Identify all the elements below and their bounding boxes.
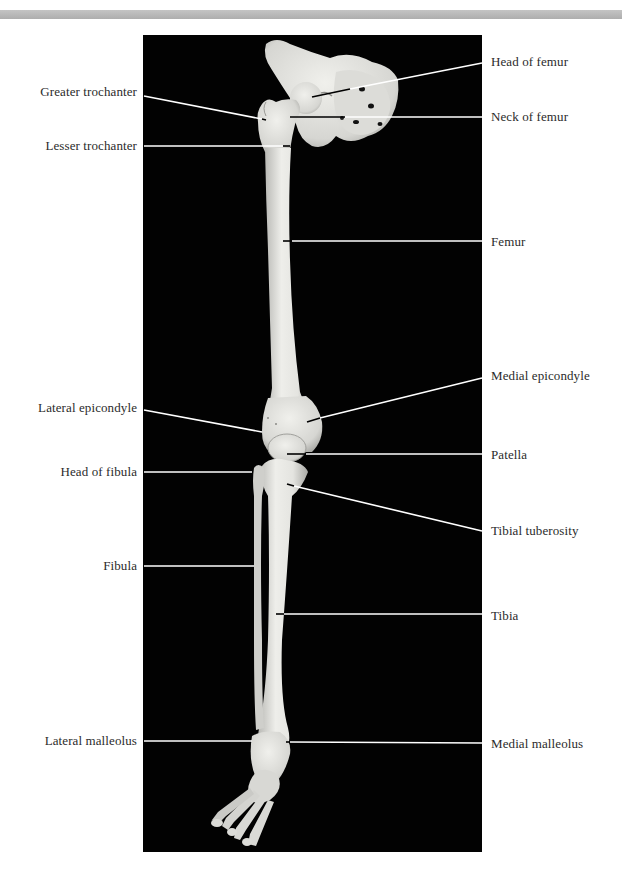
label-greater-trochanter: Greater trochanter <box>0 84 137 100</box>
label-head-of-femur: Head of femur <box>491 54 568 70</box>
label-tibial-tuberosity: Tibial tuberosity <box>491 523 579 539</box>
header-divider-bar <box>0 10 622 19</box>
patella <box>268 434 306 462</box>
label-lateral-epicondyle: Lateral epicondyle <box>0 400 137 416</box>
label-femur: Femur <box>491 234 525 250</box>
skeleton-photo-panel <box>143 35 482 852</box>
fibula <box>253 465 265 730</box>
label-medial-malleolus: Medial malleolus <box>491 736 583 752</box>
femur-shaft <box>265 148 312 414</box>
label-neck-of-femur: Neck of femur <box>491 109 568 125</box>
label-fibula: Fibula <box>0 558 137 574</box>
label-lateral-malleolus: Lateral malleolus <box>0 733 137 749</box>
label-head-of-fibula: Head of fibula <box>0 464 137 480</box>
label-lesser-trochanter: Lesser trochanter <box>0 138 137 154</box>
label-medial-epicondyle: Medial epicondyle <box>491 368 590 384</box>
tibia <box>258 459 308 752</box>
lower-limb-skeleton-illustration <box>143 35 482 852</box>
foot <box>211 732 290 847</box>
label-tibia: Tibia <box>491 608 518 624</box>
label-patella: Patella <box>491 447 527 463</box>
